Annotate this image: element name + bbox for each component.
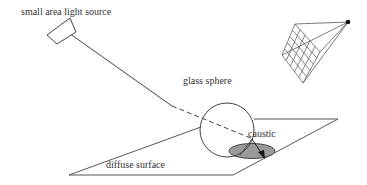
light-source-label: small area light source [21, 7, 111, 17]
caustic-label: caustic [248, 129, 276, 139]
diagram-canvas [0, 0, 367, 185]
caustic-patch [229, 144, 275, 159]
small-area-light-source [47, 18, 76, 44]
refracted-ray-inside [172, 106, 253, 139]
diffuse-surface-label: diffuse surface [106, 160, 165, 170]
glass-sphere-label: glass sphere [183, 76, 232, 86]
glass-sphere [200, 103, 254, 157]
camera-eye-point [346, 20, 351, 25]
light-ray [66, 31, 172, 106]
camera-image-grid [282, 24, 320, 83]
